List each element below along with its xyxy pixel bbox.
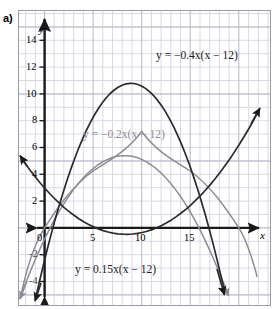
- y-tick-8: 8: [32, 114, 37, 125]
- equation-label-dark-lower: y = 0.15x(x − 12): [75, 263, 156, 275]
- y-tick-minus-4: -4: [29, 275, 38, 286]
- part-label: a): [3, 12, 12, 24]
- x-tick-0: 0: [37, 232, 42, 243]
- y-tick-6: 6: [32, 141, 37, 152]
- y-axis-name: y: [39, 23, 44, 35]
- equation-label-gray-middle: y = −0.2x(x − 12): [83, 128, 165, 140]
- x-tick-15: 15: [184, 232, 195, 243]
- x-axis-name: x: [260, 229, 265, 241]
- parabola-figure: a): [0, 0, 273, 309]
- y-tick-12: 12: [26, 61, 37, 72]
- y-tick-14: 14: [26, 34, 37, 45]
- y-tick-4: 4: [32, 168, 37, 179]
- x-tick-5: 5: [90, 232, 95, 243]
- y-tick-10: 10: [26, 88, 37, 99]
- x-tick-10: 10: [135, 232, 146, 243]
- y-tick-2: 2: [32, 195, 37, 206]
- equation-label-dark-upper: y = −0.4x(x − 12): [156, 49, 238, 61]
- plot-area: y = −0.4x(x − 12) y = −0.2x(x − 12) y = …: [18, 10, 271, 306]
- y-tick-minus-2: -2: [29, 248, 38, 259]
